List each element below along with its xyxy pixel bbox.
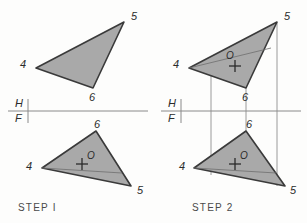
step2-top-vertex-label-5: 5 [284, 10, 291, 22]
step2-fold-label-f: F [168, 112, 176, 124]
step1-front-point-label-o: O [87, 150, 95, 161]
step2-top-vertex-label-4: 4 [173, 58, 179, 70]
step1-front-vertex-label-6: 6 [94, 118, 101, 130]
step1-top-vertex-label-4: 4 [20, 58, 26, 70]
step2-front-vertex-label-5: 5 [290, 184, 297, 196]
step-1-group: 4 5 6 H F O 4 5 6 STEP I [8, 10, 148, 213]
drawing-canvas: 4 5 6 H F O 4 5 6 STEP I [0, 0, 307, 223]
step1-front-vertex-label-4: 4 [26, 160, 32, 172]
step2-caption: STEP 2 [192, 202, 233, 213]
step1-front-vertex-label-5: 5 [137, 184, 144, 196]
step1-top-vertex-label-5: 5 [131, 10, 138, 22]
step2-top-point-label-o: O [226, 50, 234, 61]
step1-top-vertex-label-6: 6 [89, 91, 96, 103]
step1-fold-label-f: F [15, 112, 23, 124]
technical-drawing-svg: 4 5 6 H F O 4 5 6 STEP I [0, 0, 307, 223]
step1-top-view-triangle [36, 22, 124, 88]
step2-front-vertex-label-6: 6 [246, 118, 253, 130]
step2-front-point-label-o: O [240, 150, 248, 161]
step-2-group: O 4 5 6 H F O 4 5 6 STEP 2 [161, 10, 301, 213]
step2-front-vertex-label-4: 4 [179, 160, 185, 172]
step2-fold-label-h: H [168, 97, 176, 109]
step1-caption: STEP I [18, 202, 57, 213]
step1-fold-label-h: H [15, 97, 23, 109]
step2-top-vertex-label-6: 6 [242, 91, 249, 103]
